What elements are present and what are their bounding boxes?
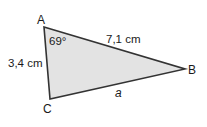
side-label-ab: 7,1 cm <box>106 33 141 45</box>
triangle-diagram: A B C 69° 7,1 cm 3,4 cm a <box>0 0 207 127</box>
triangle-svg: A B C 69° 7,1 cm 3,4 cm a <box>0 0 207 127</box>
side-label-ac: 3,4 cm <box>8 57 43 69</box>
side-label-bc: a <box>115 86 122 100</box>
vertex-label-b: B <box>188 63 196 77</box>
vertex-label-c: C <box>43 102 52 116</box>
vertex-label-a: A <box>37 13 45 27</box>
angle-label-a: 69° <box>49 35 66 47</box>
